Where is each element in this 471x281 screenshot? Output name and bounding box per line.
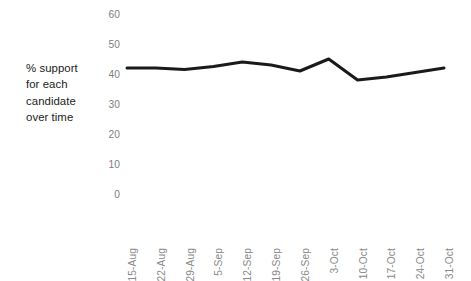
y-tick-label: 40 <box>108 69 120 80</box>
x-tick-label: 10-Oct <box>358 248 369 279</box>
x-tick-label: 17-Oct <box>386 248 397 279</box>
plot-area <box>120 14 456 194</box>
x-tick-label: 3-Oct <box>329 248 340 273</box>
y-tick-label: 20 <box>108 129 120 140</box>
y-tick-label: 50 <box>108 39 120 50</box>
x-tick-label: 19-Sep <box>271 248 282 281</box>
y-axis-tick-labels: 6050403020100 <box>96 14 120 194</box>
x-tick-label: 24-Oct <box>415 248 426 279</box>
x-tick-label: 5-Sep <box>213 248 224 276</box>
y-tick-label: 60 <box>108 9 120 20</box>
y-tick-label: 10 <box>108 159 120 170</box>
x-tick-label: 22-Aug <box>156 248 167 281</box>
data-line-svg <box>120 14 456 194</box>
x-tick-label: 29-Aug <box>185 248 196 281</box>
y-axis-title: % support for each candidate over time <box>26 60 104 126</box>
series-line-percent-support <box>127 59 444 80</box>
x-axis-tick-labels: 15-Aug22-Aug29-Aug5-Sep12-Sep19-Sep26-Se… <box>120 196 456 249</box>
x-tick-label: 15-Aug <box>127 248 138 281</box>
y-tick-label: 30 <box>108 99 120 110</box>
x-tick-label: 12-Sep <box>242 248 253 281</box>
x-tick-label: 31-Oct <box>444 248 455 279</box>
x-tick-label: 26-Sep <box>300 248 311 281</box>
